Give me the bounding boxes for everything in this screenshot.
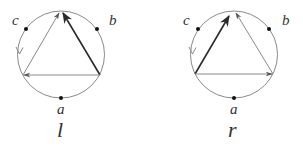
caption-r: r (228, 117, 237, 142)
label-b: b (109, 12, 117, 28)
diagram-canvas: c b a l c b a r (0, 0, 303, 147)
panel-l: c b a l (12, 11, 117, 142)
thick-edge-to-apex (63, 13, 100, 75)
point-c-dot (24, 27, 28, 31)
thin-edge-to-apex (236, 13, 273, 74)
point-c-dot (196, 27, 200, 31)
label-a: a (230, 101, 238, 117)
thin-edge-to-apex (23, 13, 59, 75)
point-b-dot (267, 27, 271, 31)
label-c: c (12, 12, 19, 28)
circle (191, 11, 278, 98)
label-a: a (57, 101, 65, 117)
thick-edge-to-apex (195, 16, 229, 74)
point-b-dot (95, 27, 99, 31)
point-a-dot (59, 96, 63, 100)
label-c: c (183, 12, 190, 28)
point-a-dot (232, 96, 236, 100)
panel-r: c b a r (183, 11, 290, 142)
caption-l: l (57, 117, 63, 142)
label-b: b (282, 12, 290, 28)
circle (18, 11, 105, 98)
